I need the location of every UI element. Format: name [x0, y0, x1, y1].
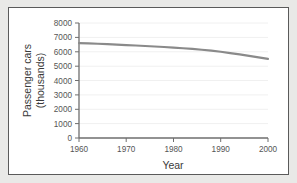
xtick-label-1990: 1990 [212, 145, 231, 154]
x-axis-title: Year [162, 159, 184, 171]
ytick-label-7000: 7000 [54, 33, 73, 42]
ytick-label-5000: 5000 [54, 62, 73, 71]
ytick-label-0: 0 [67, 134, 72, 143]
y-axis-title-line1: Passenger cars [21, 44, 33, 117]
data-line-passenger-cars [79, 43, 268, 59]
xtick-label-1970: 1970 [117, 145, 136, 154]
ytick-label-3000: 3000 [54, 91, 73, 100]
line-chart: 8000 7000 6000 5000 4000 3000 2000 1000 … [9, 8, 288, 174]
x-axis: 1960 1970 1980 1990 2000 [70, 138, 278, 154]
ytick-label-8000: 8000 [54, 19, 73, 28]
xtick-label-1960: 1960 [70, 145, 89, 154]
ytick-label-6000: 6000 [54, 48, 73, 57]
ytick-label-1000: 1000 [54, 120, 73, 129]
y-axis-title: Passenger cars (thousands) [21, 44, 46, 117]
gridlines [79, 23, 268, 124]
chart-figure: 8000 7000 6000 5000 4000 3000 2000 1000 … [8, 7, 289, 175]
y-axis-title-line2: (thousands) [34, 53, 46, 108]
xtick-label-1980: 1980 [164, 145, 183, 154]
ytick-label-4000: 4000 [54, 77, 73, 86]
y-axis: 8000 7000 6000 5000 4000 3000 2000 1000 … [54, 19, 79, 143]
xtick-label-2000: 2000 [259, 145, 278, 154]
ytick-label-2000: 2000 [54, 105, 73, 114]
